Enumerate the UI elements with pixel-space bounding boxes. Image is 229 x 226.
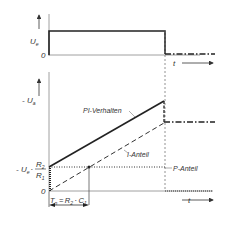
bottom-x-label: t — [188, 196, 191, 205]
input-step-curve — [49, 31, 165, 55]
bottom-graph — [39, 72, 215, 207]
top-zero-label: 0 — [41, 51, 46, 60]
fraction-denominator: R1 — [36, 171, 45, 181]
bottom-zero-label: 0 — [41, 187, 46, 196]
top-x-label: t — [173, 59, 176, 68]
p-level-label: - Ue· — [16, 165, 33, 175]
pi-controller-diagram: Ue 0 t - Ua - Ue· R2 R1 0 t PI-Verhalten… — [0, 0, 229, 226]
fraction-numerator: R2 — [36, 160, 45, 170]
pi-verhalten-label: PI-Verhalten — [83, 107, 122, 114]
pi-label-leader — [129, 111, 135, 117]
i-anteil-label: I-Anteil — [127, 151, 149, 158]
tn-intersection-dot — [88, 166, 91, 169]
bottom-y-label: - Ua — [22, 96, 36, 106]
top-graph — [39, 14, 215, 63]
p-anteil-label: P-Anteil — [173, 165, 198, 172]
top-y-label: Ue — [30, 37, 39, 47]
time-constant-label: Tn=R2·C1 — [50, 196, 87, 206]
